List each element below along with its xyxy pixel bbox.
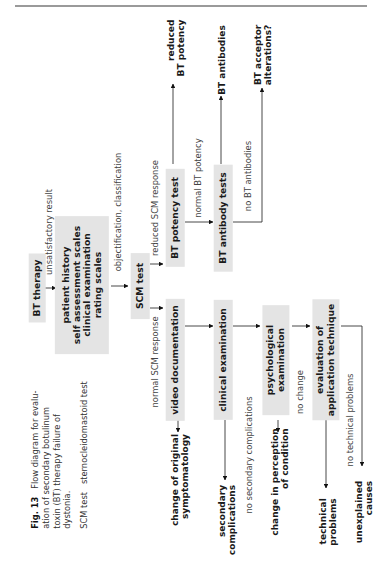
- assessment-line-1: patient history: [61, 226, 72, 344]
- edge-label-no-technical: no technical problems: [346, 374, 356, 467]
- node-clinical-examination: clinical examination: [214, 300, 233, 420]
- psych-line-2: examination: [276, 325, 287, 395]
- outcome-acceptor-line-1: BT acceptor: [253, 25, 263, 86]
- node-bt-potency-test: BT potency test: [166, 169, 185, 267]
- outcome-reduced-line-1: reduced: [166, 20, 176, 77]
- caption-line-1: Flow diagram for evalu-: [30, 390, 40, 488]
- edge-label-normal-bt-potency: normal BT potency: [194, 138, 204, 217]
- outcome-bt-antibodies: BT antibodies: [217, 25, 227, 95]
- node-scm-test: SCM test: [131, 253, 150, 319]
- figure-caption: Fig. 13 Flow diagram for evalu- ation of…: [30, 381, 90, 529]
- node-psychological-examination: psychological examination: [262, 305, 289, 415]
- abbrev-term: SCM test: [79, 492, 89, 529]
- edge-label-no-bt-antibodies: no BT antibodies: [244, 141, 254, 211]
- edge-label-objectification: objectification, classification: [114, 153, 124, 272]
- assessment-line-4: rating scales: [93, 226, 104, 344]
- outcome-technical-line-2: problems: [328, 498, 338, 545]
- outcome-bt-acceptor: BT acceptor alterations?: [253, 25, 274, 86]
- outcome-acceptor-line-2: alterations?: [263, 25, 273, 86]
- eval-line-2: application technique: [326, 304, 337, 417]
- outcome-perception-line-1: change in perception: [270, 428, 280, 535]
- node-assessment: patient history self assessment scales c…: [55, 216, 109, 354]
- node-evaluation-technique: evaluation of application technique: [312, 300, 339, 421]
- eval-line-1: evaluation of: [315, 304, 326, 417]
- outcome-perception-line-2: of condition: [280, 428, 290, 535]
- node-bt-antibody-tests: BT antibody tests: [214, 164, 233, 271]
- node-bt-therapy: BT therapy: [29, 254, 46, 323]
- caption-line-3: toxin (BT) therapy failure of: [52, 381, 63, 529]
- caption-line-4: dystonia.: [62, 381, 73, 529]
- edge-label-unsatisfactory: unsatisfactory result: [45, 189, 55, 275]
- node-video-documentation: video documentation: [166, 299, 185, 421]
- outcome-secondary-complications: secondary complications: [217, 485, 238, 555]
- outcome-change-symptomatology: change of original symptomatology: [170, 434, 191, 526]
- outcome-change-perception: change in perception of condition: [270, 428, 291, 535]
- outcome-symptom-line-2: symptomatology: [180, 434, 190, 526]
- outcome-reduced-line-2: BT potency: [176, 20, 186, 77]
- outcome-reduced-bt-potency: reduced BT potency: [166, 20, 187, 77]
- figure-label: Fig. 13: [30, 497, 40, 529]
- edge-label-reduced-scm: reduced SCM response: [151, 160, 161, 256]
- outcome-unexplained-line-1: unexplained: [354, 481, 364, 543]
- abbrev-definition: sternocleidomastoid test: [79, 381, 89, 484]
- edge-label-normal-scm: normal SCM response: [151, 316, 161, 407]
- psych-line-1: psychological: [265, 325, 276, 395]
- outcome-unexplained-causes: unexplained causes: [354, 481, 375, 543]
- outcome-secondary-line-2: complications: [227, 485, 237, 555]
- outcome-technical-problems: technical problems: [318, 498, 339, 545]
- edge-label-no-secondary: no secondary complications: [245, 396, 255, 513]
- edge-label-no-change: no change: [296, 370, 306, 414]
- outcome-symptom-line-1: change of original: [170, 434, 180, 526]
- outcome-unexplained-line-2: causes: [364, 481, 374, 543]
- caption-line-2: ation of secondary botulinum: [41, 381, 52, 529]
- outcome-technical-line-1: technical: [318, 498, 328, 545]
- outcome-secondary-line-1: secondary: [217, 485, 227, 555]
